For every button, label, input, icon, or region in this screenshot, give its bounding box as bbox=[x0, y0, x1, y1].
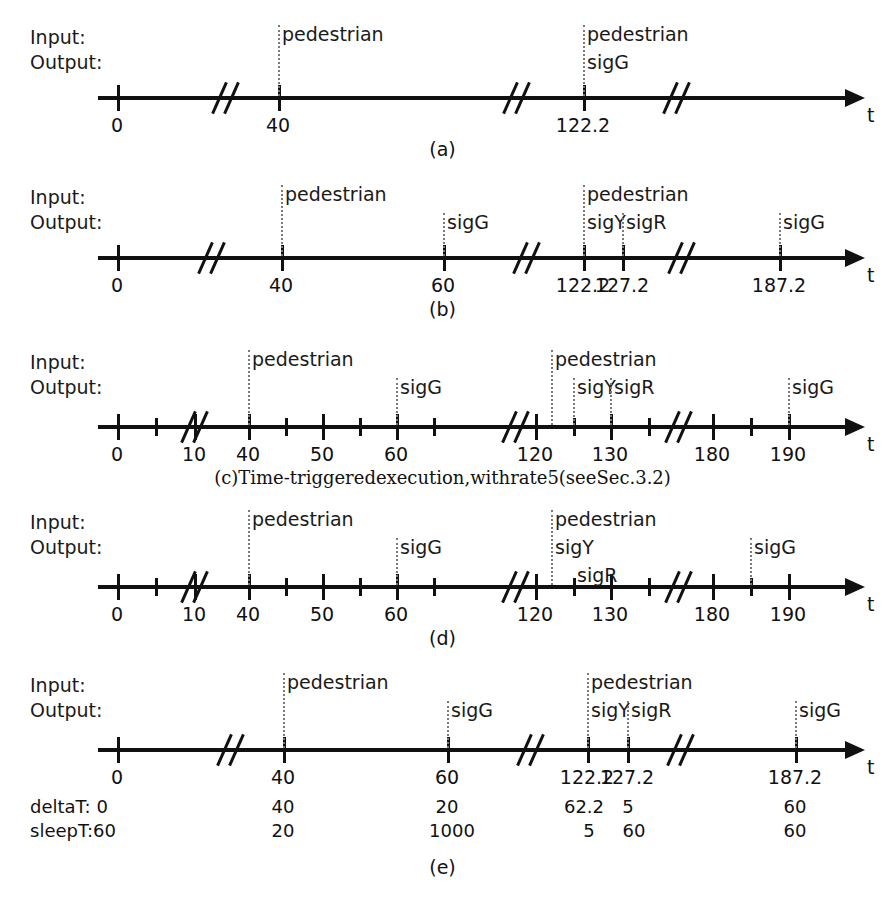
event-label: sigR bbox=[626, 211, 666, 233]
event-label: sigG bbox=[799, 699, 841, 721]
axis-tick bbox=[788, 574, 791, 600]
axis-tick bbox=[194, 414, 197, 440]
sleep-t-value: 20 bbox=[272, 820, 295, 841]
axis-break-mark bbox=[215, 733, 249, 767]
axis-break-mark bbox=[196, 241, 230, 275]
axis-tick bbox=[535, 574, 538, 600]
sleep-t-value: 60 bbox=[784, 820, 807, 841]
tick-label: 0 bbox=[111, 603, 123, 625]
panel-caption: (d) bbox=[0, 627, 885, 649]
tick-label: 10 bbox=[182, 443, 206, 465]
axis-tick bbox=[285, 578, 288, 596]
tick-label: 40 bbox=[236, 603, 260, 625]
tick-label: 120 bbox=[517, 443, 553, 465]
tick-label: 187.2 bbox=[768, 766, 822, 788]
event-label: sigG bbox=[400, 376, 442, 398]
axis-tick bbox=[712, 414, 715, 440]
event-guide-line bbox=[583, 25, 585, 96]
tick-label: 60 bbox=[384, 443, 408, 465]
tick-label: 40 bbox=[266, 114, 290, 136]
axis-tick bbox=[322, 574, 325, 600]
event-label: sigG bbox=[587, 51, 629, 73]
panel-caption: (b) bbox=[0, 298, 885, 320]
axis-tick bbox=[117, 414, 120, 440]
io-labels: Input:Output: bbox=[30, 185, 102, 235]
event-label: pedestrian bbox=[252, 508, 354, 530]
axis-break-mark bbox=[501, 81, 535, 115]
input-label: Input: bbox=[30, 350, 102, 375]
output-label: Output: bbox=[30, 50, 102, 75]
axis-tick bbox=[433, 578, 436, 596]
delta-t-value: 5 bbox=[622, 796, 633, 817]
axis-variable-label: t bbox=[867, 264, 874, 286]
axis-break-mark bbox=[663, 410, 697, 444]
axis-break-mark bbox=[663, 570, 697, 604]
event-guide-line bbox=[396, 538, 398, 585]
tick-label: 40 bbox=[269, 274, 293, 296]
tick-label: 122.2 bbox=[556, 114, 610, 136]
event-guide-line bbox=[573, 378, 575, 425]
tick-label: 0 bbox=[111, 274, 123, 296]
axis-variable-label: t bbox=[867, 593, 874, 615]
output-label: Output: bbox=[30, 375, 102, 400]
event-label: sigG bbox=[400, 536, 442, 558]
io-labels: Input:Output: bbox=[30, 673, 102, 723]
event-guide-line bbox=[627, 701, 629, 748]
axis-variable-label: t bbox=[867, 433, 874, 455]
tick-label: 0 bbox=[111, 766, 123, 788]
event-label: pedestrian bbox=[591, 671, 693, 693]
event-guide-line bbox=[779, 213, 781, 256]
axis-tick bbox=[750, 418, 753, 436]
event-label: sigY bbox=[587, 211, 626, 233]
axis-tick bbox=[712, 574, 715, 600]
axis-tick bbox=[322, 414, 325, 440]
panel-caption: (e) bbox=[0, 856, 885, 878]
event-label: sigG bbox=[754, 536, 796, 558]
delta-t-value: 62.2 bbox=[564, 796, 604, 817]
axis-break-mark bbox=[515, 733, 549, 767]
tick-label: 60 bbox=[431, 274, 455, 296]
tick-label: 130 bbox=[592, 443, 628, 465]
event-label: pedestrian bbox=[287, 671, 389, 693]
event-label: sigG bbox=[792, 376, 834, 398]
tick-label: 130 bbox=[592, 603, 628, 625]
axis-break-mark bbox=[665, 733, 699, 767]
event-guide-line bbox=[587, 673, 589, 748]
event-label: sigG bbox=[451, 699, 493, 721]
output-label: Output: bbox=[30, 698, 102, 723]
tick-label: 10 bbox=[182, 603, 206, 625]
event-guide-line bbox=[278, 25, 280, 96]
event-guide-line bbox=[583, 185, 585, 256]
event-guide-line bbox=[610, 378, 612, 425]
event-guide-line bbox=[396, 378, 398, 425]
event-label: pedestrian bbox=[252, 348, 354, 370]
axis-variable-label: t bbox=[867, 756, 874, 778]
event-label: pedestrian bbox=[587, 23, 689, 45]
sleep-t-value: 60 bbox=[623, 820, 646, 841]
tick-label: 120 bbox=[517, 603, 553, 625]
event-label: pedestrian bbox=[555, 348, 657, 370]
axis-line bbox=[98, 748, 845, 752]
output-label: Output: bbox=[30, 210, 102, 235]
tick-label: 180 bbox=[694, 603, 730, 625]
axis-tick bbox=[648, 578, 651, 596]
panel-caption: (c)Time-triggeredexecution,withrate5(see… bbox=[0, 467, 885, 488]
event-label: pedestrian bbox=[282, 23, 384, 45]
panel-caption: (a) bbox=[0, 138, 885, 160]
delta-t-value: 40 bbox=[272, 796, 295, 817]
sleep-t-label: sleepT:60 bbox=[30, 820, 116, 841]
tick-label: 60 bbox=[384, 603, 408, 625]
event-guide-line bbox=[750, 538, 752, 585]
axis-arrow-icon bbox=[845, 741, 865, 759]
event-label: sigG bbox=[447, 211, 489, 233]
event-label: sigG bbox=[783, 211, 825, 233]
axis-arrow-icon bbox=[845, 89, 865, 107]
event-guide-line bbox=[795, 701, 797, 748]
axis-tick bbox=[117, 737, 120, 763]
axis-tick bbox=[535, 414, 538, 440]
tick-label: 127.2 bbox=[595, 274, 649, 296]
input-label: Input: bbox=[30, 25, 102, 50]
delta-t-value: 20 bbox=[436, 796, 459, 817]
tick-label: 40 bbox=[236, 443, 260, 465]
input-label: Input: bbox=[30, 510, 102, 535]
